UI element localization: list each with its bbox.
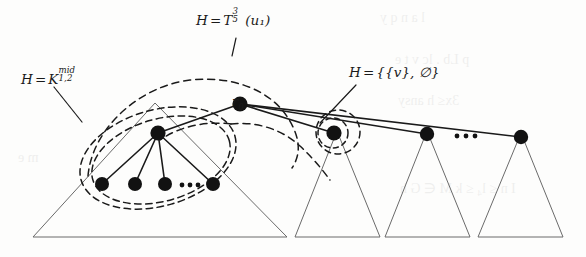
ellipsis-right-triangles-dot-2 [464,134,469,139]
ellipsis-group [180,134,478,188]
figure-container: l a n q y p Lb . lc v t e 3x≤ h ansy I n… [0,0,586,257]
leader-line-kmid [54,87,82,122]
edge-hub-to-child-3 [158,133,165,184]
label-kmid-base: K [48,71,58,87]
child-node-4 [206,177,220,191]
child-node-2 [128,177,142,191]
triangle-apex-node-2 [420,127,434,141]
label-kmid-scripts: mid1,2 [58,70,71,84]
dashed-region-outer-big-lower [231,123,330,180]
triangle-apex-node-1 [326,125,341,140]
label-hv-value: {{v}, ∅} [376,64,439,80]
triangle-apex-node-3 [514,130,528,144]
label-t53-scripts: 35 [232,11,245,25]
triangles-group [33,103,563,237]
ellipsis-right-triangles-dot-3 [473,134,478,139]
child-node-1 [95,177,109,191]
subtree-triangle-3 [478,133,563,237]
edges-group [102,104,521,184]
ellipsis-left-cluster-dot-3 [196,183,201,188]
label-t53-base: T [223,12,232,28]
diagram-canvas [0,0,586,257]
label-r0-sub: 0 [238,102,244,112]
label-h-equals-t53: H=T35(u₁) [196,11,270,27]
ellipsis-right-triangles-dot-1 [455,134,460,139]
ellipsis-left-cluster-dot-1 [180,183,185,188]
label-root-r0: r0 [232,95,244,111]
ellipsis-left-cluster-dot-2 [188,183,193,188]
edge-hub-to-child-4 [158,133,213,184]
label-kmid-sub: 1,2 [58,74,72,83]
hub-node-left [150,125,165,140]
subtree-triangle-2 [385,131,470,237]
label-t53-arg: (u₁) [245,12,270,28]
label-t53-eq: = [208,12,223,28]
dashed-region-outer-big-lower-2 [160,123,231,140]
edge-hub-to-child-2 [135,133,158,184]
leader-line-t53 [232,38,236,56]
label-hv-lhs: H [349,64,361,80]
edge-root-to-apex-1 [240,104,334,133]
label-t53-lhs: H [196,12,208,28]
dashed-regions-group [68,79,360,226]
label-t53-sub: 5 [232,15,238,24]
edge-root-to-apex-3 [240,104,521,137]
label-hv-eq: = [361,64,376,80]
label-h-equals-kmid: H=Kmid1,2 [21,70,71,86]
label-kmid-eq: = [33,71,48,87]
label-kmid-lhs: H [21,71,33,87]
child-node-3 [158,177,172,191]
label-h-equals-set: H={{v}, ∅} [349,66,440,80]
